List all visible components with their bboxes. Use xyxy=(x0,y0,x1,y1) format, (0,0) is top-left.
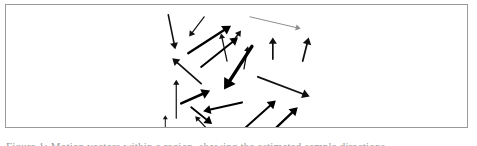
arrow-shaft xyxy=(258,77,304,94)
vector-arrow xyxy=(189,17,204,37)
arrow-head-icon xyxy=(163,115,168,119)
arrow-shaft xyxy=(181,94,203,104)
vector-arrow xyxy=(277,107,298,127)
arrow-head-icon xyxy=(269,37,277,43)
vector-arrow xyxy=(258,77,310,98)
vector-arrow xyxy=(250,17,301,31)
arrow-shaft xyxy=(244,105,271,127)
vector-arrow xyxy=(172,58,201,84)
arrow-shaft xyxy=(303,43,308,61)
arrow-head-icon xyxy=(303,37,311,45)
arrow-head-icon xyxy=(203,105,211,114)
arrow-head-icon xyxy=(295,25,301,31)
figure-container: Figure 1: Motion vectors within a region… xyxy=(0,0,477,146)
vector-arrow xyxy=(203,102,242,114)
vector-arrow xyxy=(269,37,277,59)
arrow-layer xyxy=(163,15,311,127)
arrow-head-icon xyxy=(219,34,225,39)
arrow-shaft xyxy=(177,62,201,84)
vector-arrow xyxy=(181,89,210,103)
vector-arrow xyxy=(163,115,168,127)
arrow-shaft xyxy=(209,102,242,109)
vector-arrow xyxy=(244,100,276,127)
vector-field-canvas xyxy=(6,5,467,127)
arrow-shaft xyxy=(277,112,293,127)
vector-arrow xyxy=(235,31,241,39)
vector-arrow xyxy=(303,37,311,61)
arrow-shaft xyxy=(250,17,297,28)
arrow-head-icon xyxy=(235,31,241,37)
vector-arrow xyxy=(168,15,178,49)
figure-caption-text: Figure 1: Motion vectors within a region… xyxy=(6,140,472,146)
arrow-shaft xyxy=(201,41,233,67)
arrow-shaft xyxy=(229,46,252,82)
vector-arrow xyxy=(173,80,179,118)
arrow-head-icon xyxy=(173,80,179,85)
arrow-head-icon xyxy=(170,42,178,49)
vector-field-panel xyxy=(5,4,468,128)
arrow-shaft xyxy=(168,15,174,44)
arrow-shaft xyxy=(192,17,204,33)
vector-arrow xyxy=(224,46,252,89)
figure-caption: Figure 1: Motion vectors within a region… xyxy=(6,133,472,146)
arrow-head-icon xyxy=(189,30,195,36)
